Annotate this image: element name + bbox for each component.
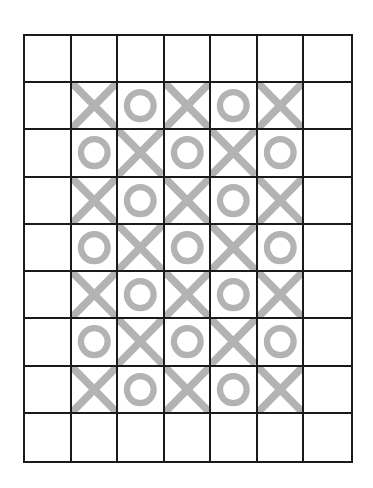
board-cell-r7-c6[interactable]	[258, 319, 305, 366]
board-cell-r7-c3[interactable]	[118, 319, 165, 366]
board-cell-r1-c4[interactable]	[165, 36, 212, 83]
board-cell-r4-c3[interactable]	[118, 178, 165, 225]
board-cell-r8-c1[interactable]	[25, 367, 72, 414]
board-cell-r8-c6[interactable]	[258, 367, 305, 414]
board-cell-r2-c1[interactable]	[25, 83, 72, 130]
board-cell-r8-c2[interactable]	[72, 367, 119, 414]
board-cell-r5-c5[interactable]	[211, 225, 258, 272]
board-cell-r2-c5[interactable]	[211, 83, 258, 130]
x-mark-icon	[258, 178, 303, 223]
board-cell-r6-c2[interactable]	[72, 272, 119, 319]
board-cell-r7-c4[interactable]	[165, 319, 212, 366]
x-mark-icon	[211, 130, 256, 175]
o-mark-icon	[211, 367, 256, 412]
board-cell-r1-c5[interactable]	[211, 36, 258, 83]
x-mark-icon	[165, 367, 210, 412]
x-mark-icon	[258, 83, 303, 128]
o-mark-icon	[165, 130, 210, 175]
board-cell-r7-c7[interactable]	[304, 319, 351, 366]
board-cell-r4-c7[interactable]	[304, 178, 351, 225]
board-cell-r9-c6[interactable]	[258, 414, 305, 461]
board-cell-r5-c6[interactable]	[258, 225, 305, 272]
o-mark-icon	[211, 83, 256, 128]
x-mark-icon	[165, 83, 210, 128]
board-cell-r8-c7[interactable]	[304, 367, 351, 414]
board-cell-r8-c4[interactable]	[165, 367, 212, 414]
board-cell-r1-c1[interactable]	[25, 36, 72, 83]
board-cell-r4-c4[interactable]	[165, 178, 212, 225]
board-cell-r3-c6[interactable]	[258, 130, 305, 177]
board-cell-r1-c6[interactable]	[258, 36, 305, 83]
board-cell-r1-c2[interactable]	[72, 36, 119, 83]
o-mark-icon	[118, 178, 163, 223]
o-mark-icon	[258, 130, 303, 175]
board-cell-r3-c1[interactable]	[25, 130, 72, 177]
x-mark-icon	[118, 319, 163, 364]
board-cell-r4-c1[interactable]	[25, 178, 72, 225]
o-mark-icon	[118, 367, 163, 412]
board-cell-r4-c2[interactable]	[72, 178, 119, 225]
board-cell-r4-c5[interactable]	[211, 178, 258, 225]
o-mark-icon	[72, 225, 117, 270]
o-mark-icon	[72, 130, 117, 175]
o-mark-icon	[258, 319, 303, 364]
board-cell-r6-c7[interactable]	[304, 272, 351, 319]
board-cell-r3-c5[interactable]	[211, 130, 258, 177]
board-cell-r9-c1[interactable]	[25, 414, 72, 461]
board-cell-r6-c4[interactable]	[165, 272, 212, 319]
x-mark-icon	[211, 225, 256, 270]
x-mark-icon	[118, 225, 163, 270]
board-cell-r7-c2[interactable]	[72, 319, 119, 366]
board-cell-r2-c4[interactable]	[165, 83, 212, 130]
board-cell-r4-c6[interactable]	[258, 178, 305, 225]
x-mark-icon	[258, 367, 303, 412]
board-cell-r8-c5[interactable]	[211, 367, 258, 414]
board-cell-r2-c3[interactable]	[118, 83, 165, 130]
board-cell-r1-c7[interactable]	[304, 36, 351, 83]
board-cell-r2-c6[interactable]	[258, 83, 305, 130]
board-cell-r2-c7[interactable]	[304, 83, 351, 130]
x-mark-icon	[258, 272, 303, 317]
board-cell-r5-c1[interactable]	[25, 225, 72, 272]
o-mark-icon	[118, 272, 163, 317]
o-mark-icon	[118, 83, 163, 128]
x-mark-icon	[72, 178, 117, 223]
board-cell-r6-c6[interactable]	[258, 272, 305, 319]
board-cell-r2-c2[interactable]	[72, 83, 119, 130]
board-cell-r5-c4[interactable]	[165, 225, 212, 272]
x-mark-icon	[211, 319, 256, 364]
board-cell-r9-c7[interactable]	[304, 414, 351, 461]
board-cell-r7-c1[interactable]	[25, 319, 72, 366]
board-cell-r9-c3[interactable]	[118, 414, 165, 461]
x-mark-icon	[165, 272, 210, 317]
board-cell-r3-c2[interactable]	[72, 130, 119, 177]
board-cell-r6-c3[interactable]	[118, 272, 165, 319]
o-mark-icon	[72, 319, 117, 364]
o-mark-icon	[165, 225, 210, 270]
board-cell-r3-c7[interactable]	[304, 130, 351, 177]
board-cell-r3-c3[interactable]	[118, 130, 165, 177]
board-cell-r5-c3[interactable]	[118, 225, 165, 272]
board-cell-r6-c1[interactable]	[25, 272, 72, 319]
x-mark-icon	[118, 130, 163, 175]
board-cell-r9-c2[interactable]	[72, 414, 119, 461]
board-cell-r5-c7[interactable]	[304, 225, 351, 272]
x-mark-icon	[72, 367, 117, 412]
board-cell-r6-c5[interactable]	[211, 272, 258, 319]
board-cell-r3-c4[interactable]	[165, 130, 212, 177]
o-mark-icon	[211, 178, 256, 223]
o-mark-icon	[211, 272, 256, 317]
board-cell-r7-c5[interactable]	[211, 319, 258, 366]
o-mark-icon	[258, 225, 303, 270]
board-cell-r9-c5[interactable]	[211, 414, 258, 461]
board-cell-r5-c2[interactable]	[72, 225, 119, 272]
game-board	[23, 34, 353, 463]
o-mark-icon	[165, 319, 210, 364]
board-cell-r1-c3[interactable]	[118, 36, 165, 83]
board-cell-r9-c4[interactable]	[165, 414, 212, 461]
x-mark-icon	[72, 83, 117, 128]
x-mark-icon	[72, 272, 117, 317]
board-cell-r8-c3[interactable]	[118, 367, 165, 414]
x-mark-icon	[165, 178, 210, 223]
